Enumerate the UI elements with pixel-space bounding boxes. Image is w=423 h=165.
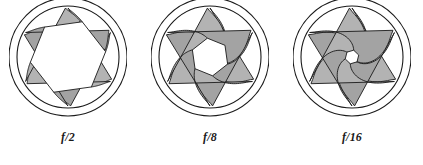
aperture-f8-graphic xyxy=(151,0,269,128)
aperture-f2-caption: f/2 xyxy=(9,130,127,145)
aperture-f8: f/8 xyxy=(151,0,269,128)
aperture-f16: f/16 xyxy=(293,0,411,128)
aperture-f16-caption: f/16 xyxy=(293,130,411,145)
aperture-f8-caption: f/8 xyxy=(151,130,269,145)
aperture-f16-graphic xyxy=(293,0,411,128)
aperture-f2-graphic xyxy=(9,0,127,128)
aperture-f2: f/2 xyxy=(9,0,127,128)
aperture-diagram: f/2 f/8 f/16 xyxy=(0,0,423,165)
